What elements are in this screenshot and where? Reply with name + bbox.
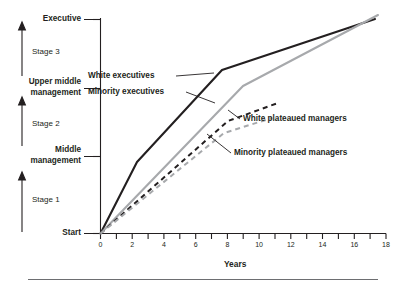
x-tick-label-10: 10 [252, 241, 266, 248]
y-label-middle-management: Middle management [30, 145, 81, 166]
label-white-executives: White executives [88, 71, 154, 80]
series-minority-executives [101, 15, 379, 234]
x-axis-title: Years [224, 259, 246, 269]
footer-divider [28, 279, 378, 280]
x-tick-label-2: 2 [125, 241, 139, 248]
x-tick-label-18: 18 [379, 241, 393, 248]
y-label-connectors [84, 20, 93, 234]
x-tick-label-14: 14 [316, 241, 330, 248]
series-white-executives [101, 19, 376, 234]
leader-minority-plateaued [207, 134, 231, 153]
stage-1-label: Stage 1 [32, 195, 60, 204]
series-minority-plateaued-managers [101, 118, 273, 234]
stage-1-arrow [19, 172, 26, 232]
stage-2-label: Stage 2 [32, 119, 60, 128]
label-minority-plateaued-managers: Minority plateaued managers [234, 148, 347, 157]
y-axis-ticks [93, 20, 101, 234]
x-tick-label-12: 12 [284, 241, 298, 248]
x-tick-label-8: 8 [220, 241, 234, 248]
leader-white-plateaued [228, 110, 240, 119]
stage-3-arrow [19, 22, 26, 76]
chart-figure: Executive Upper middle management Middle… [0, 0, 403, 294]
x-axis-ticks [101, 234, 387, 240]
x-tick-label-16: 16 [347, 241, 361, 248]
x-tick-label-6: 6 [189, 241, 203, 248]
label-white-plateaued-managers: White plateaued managers [243, 114, 347, 123]
stage-3-label: Stage 3 [32, 47, 60, 56]
y-label-middle-line1: Middle [55, 145, 81, 154]
y-label-upper-middle-management: Upper middle management [29, 77, 81, 98]
x-tick-label-4: 4 [157, 241, 171, 248]
label-minority-executives: Minority executives [88, 87, 164, 96]
y-label-middle-line2: management [30, 156, 81, 165]
stage-2-arrow [19, 97, 26, 146]
stage-arrows [19, 22, 26, 232]
y-label-start: Start [62, 228, 81, 239]
y-label-executive: Executive [43, 14, 81, 25]
leader-white-executives [176, 73, 214, 76]
y-label-upper-middle-line2: management [30, 88, 81, 97]
x-tick-label-0: 0 [94, 241, 108, 248]
y-label-upper-middle-line1: Upper middle [29, 77, 81, 86]
